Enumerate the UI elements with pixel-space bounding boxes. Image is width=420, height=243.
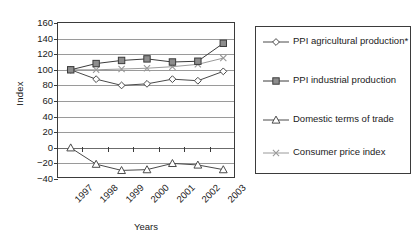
data-point-marker [273,78,279,84]
x-axis-tick-label: 1999 [123,182,146,205]
y-axis-tick-label: −40 [17,174,53,184]
data-point-marker [194,77,201,84]
x-axis-tick [159,147,160,152]
data-point-marker [118,57,124,63]
data-point-marker [169,160,177,167]
y-axis-tick-label: 120 [17,49,53,59]
x-axis-tick-label: 1997 [72,182,95,205]
y-axis-tick-label: 60 [17,96,53,106]
x-axis-tick [184,147,185,152]
legend-item[interactable]: Consumer price index [263,146,411,159]
x-axis-tick-label: 1998 [98,182,121,205]
data-point-marker [93,60,99,66]
legend-item-label: PPI industrial production [293,74,411,86]
data-point-marker [144,80,151,87]
x-axis-tick-label: 2002 [199,182,222,205]
data-point-marker [220,55,226,61]
x-axis-tick-label: 2001 [174,182,197,205]
triangle-marker-icon [263,114,289,126]
legend-item[interactable]: PPI industrial production [263,74,411,87]
y-axis-tick-label: 20 [17,127,53,137]
data-point-marker [68,67,74,73]
legend-item[interactable]: PPI agricultural production* [263,35,411,48]
data-point-marker [169,76,176,83]
x-axis-tick-label: 2000 [148,182,171,205]
chart-figure: Index 160140120100806040200−20−40 Years … [0,0,420,243]
legend-item-label: PPI agricultural production* [293,35,411,47]
series-layer [58,23,236,179]
legend-item-label: Domestic terms of trade [293,113,411,125]
legend-item[interactable]: Domestic terms of trade [263,113,411,126]
y-axis-tick-label: 140 [17,34,53,44]
y-axis-tick-label: 0 [17,143,53,153]
plot-area: 160140120100806040200−20−40 [57,22,235,178]
data-point-marker [67,144,75,151]
data-point-marker [144,56,150,62]
data-point-marker [220,68,227,75]
data-point-marker [195,58,201,64]
cross-marker-icon [263,147,289,159]
square-marker-icon [263,75,289,87]
data-point-marker [92,160,100,167]
x-axis-title: Years [57,221,235,232]
data-point-marker [220,40,226,46]
data-point-marker [273,39,280,46]
data-point-marker [93,76,100,83]
legend-item-label: Consumer price index [293,146,411,158]
x-axis-tick [82,147,83,152]
x-axis-tick [133,147,134,152]
x-axis-tick [57,147,58,152]
x-axis-tick [210,147,211,152]
y-axis-tick [54,179,58,180]
x-axis-tick-label: 2003 [225,182,248,205]
diamond-marker-icon [263,36,289,48]
chart-legend: PPI agricultural production*PPI industri… [255,26,411,174]
data-point-marker [118,82,125,89]
x-axis-tick [108,147,109,152]
y-axis-tick-label: 160 [17,18,53,28]
y-axis-tick-label: 40 [17,112,53,122]
y-axis-tick-label: −20 [17,158,53,168]
y-axis-tick-label: 100 [17,65,53,75]
data-point-marker [169,59,175,65]
y-axis-tick-label: 80 [17,80,53,90]
